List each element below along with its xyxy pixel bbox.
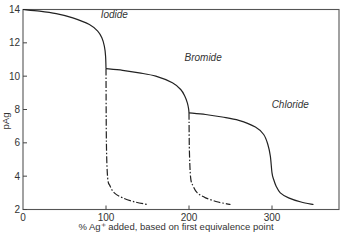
y-tick-label: 8 <box>14 104 20 115</box>
y-tick-label: 12 <box>9 37 21 48</box>
x-axis-label: % Ag⁺ added, based on first equivalence … <box>78 221 273 232</box>
iodide-curve <box>23 10 106 69</box>
titration-chart: 24681012140100200300 IodideBromideChlori… <box>0 0 347 236</box>
axis-ticks: 24681012140100200300 <box>9 4 281 223</box>
curves <box>23 10 314 205</box>
curve-labels: IodideBromideChloride <box>101 9 310 110</box>
bromide-excess-alone-curve <box>189 113 231 205</box>
y-tick-label: 10 <box>9 71 21 82</box>
bromide-label: Bromide <box>184 52 222 63</box>
y-tick-label: 14 <box>9 4 21 15</box>
bromide-curve <box>106 69 189 113</box>
y-tick-label: 6 <box>14 137 20 148</box>
y-axis-label: pAg <box>0 113 11 130</box>
chloride-label: Chloride <box>272 99 310 110</box>
chloride-curve <box>189 113 314 205</box>
x-tick-label: 0 <box>20 212 26 223</box>
y-tick-label: 4 <box>14 171 20 182</box>
iodide-excess-alone-curve <box>106 69 148 205</box>
iodide-label: Iodide <box>101 9 129 20</box>
